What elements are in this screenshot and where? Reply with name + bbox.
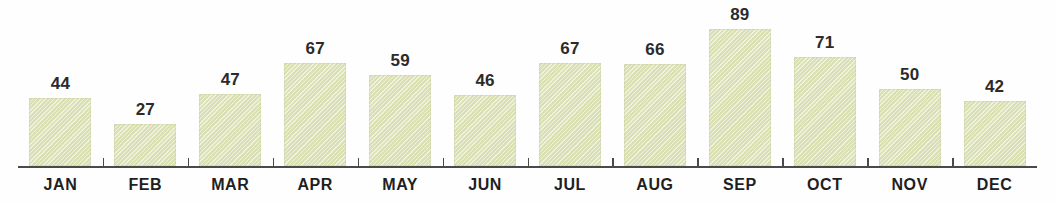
bar-rect[interactable] bbox=[199, 94, 261, 166]
bar-rect[interactable] bbox=[964, 101, 1026, 166]
category-slot: JUL bbox=[528, 172, 613, 198]
bar-value-label: 59 bbox=[390, 52, 409, 69]
bar-series: 442747675946676689715042 bbox=[18, 0, 1037, 166]
category-label[interactable]: AUG bbox=[636, 176, 673, 193]
category-slot: OCT bbox=[782, 172, 867, 198]
bar-chart: 442747675946676689715042 JANFEBMARAPRMAY… bbox=[0, 0, 1057, 202]
bar-rect[interactable] bbox=[709, 29, 771, 166]
category-label[interactable]: APR bbox=[297, 176, 333, 193]
category-slot: AUG bbox=[612, 172, 697, 198]
x-axis-tick bbox=[867, 158, 869, 167]
bar-group[interactable]: 27 bbox=[103, 0, 188, 166]
x-axis-tick bbox=[358, 158, 360, 167]
bar-value-label: 50 bbox=[900, 66, 919, 83]
category-label[interactable]: JUN bbox=[468, 176, 502, 193]
bar-rect[interactable] bbox=[539, 63, 601, 166]
x-axis-tick bbox=[697, 158, 699, 167]
x-axis-tick bbox=[782, 158, 784, 167]
category-label[interactable]: NOV bbox=[891, 176, 927, 193]
category-slot: JUN bbox=[443, 172, 528, 198]
category-slot: MAY bbox=[358, 172, 443, 198]
x-axis-tick bbox=[103, 158, 105, 167]
bar-value-label: 67 bbox=[560, 40, 579, 57]
category-label[interactable]: DEC bbox=[977, 176, 1013, 193]
bar-group[interactable]: 66 bbox=[612, 0, 697, 166]
bar-group[interactable]: 67 bbox=[528, 0, 613, 166]
bar-value-label: 46 bbox=[475, 72, 494, 89]
category-slot: MAR bbox=[188, 172, 273, 198]
bar-value-label: 66 bbox=[645, 41, 664, 58]
category-label[interactable]: JUL bbox=[554, 176, 586, 193]
x-axis-tick bbox=[188, 158, 190, 167]
category-slot: JAN bbox=[18, 172, 103, 198]
bar-value-label: 44 bbox=[51, 75, 70, 92]
bar-value-label: 89 bbox=[730, 6, 749, 23]
bar-rect[interactable] bbox=[454, 95, 516, 166]
category-label[interactable]: MAR bbox=[211, 176, 249, 193]
category-slot: DEC bbox=[952, 172, 1037, 198]
bar-group[interactable]: 59 bbox=[358, 0, 443, 166]
bar-value-label: 47 bbox=[221, 71, 240, 88]
category-slot: SEP bbox=[697, 172, 782, 198]
bar-rect[interactable] bbox=[284, 63, 346, 166]
bar-rect[interactable] bbox=[624, 64, 686, 166]
bar-group[interactable]: 42 bbox=[952, 0, 1037, 166]
bar-group[interactable]: 50 bbox=[867, 0, 952, 166]
bar-value-label: 67 bbox=[306, 40, 325, 57]
bar-value-label: 27 bbox=[136, 101, 155, 118]
x-axis-tick bbox=[952, 158, 954, 167]
bar-group[interactable]: 44 bbox=[18, 0, 103, 166]
x-axis-tick bbox=[528, 158, 530, 167]
x-axis-ticks bbox=[18, 158, 1037, 167]
bar-group[interactable]: 47 bbox=[188, 0, 273, 166]
bar-group[interactable]: 67 bbox=[273, 0, 358, 166]
category-slot: FEB bbox=[103, 172, 188, 198]
category-label[interactable]: OCT bbox=[807, 176, 843, 193]
bar-rect[interactable] bbox=[369, 75, 431, 166]
category-slot: APR bbox=[273, 172, 358, 198]
x-axis-tick bbox=[443, 158, 445, 167]
category-label[interactable]: MAY bbox=[382, 176, 418, 193]
bar-rect[interactable] bbox=[879, 89, 941, 166]
bar-group[interactable]: 46 bbox=[443, 0, 528, 166]
x-axis-category-labels: JANFEBMARAPRMAYJUNJULAUGSEPOCTNOVDEC bbox=[18, 172, 1037, 198]
category-label[interactable]: SEP bbox=[723, 176, 757, 193]
bar-rect[interactable] bbox=[794, 57, 856, 166]
category-slot: NOV bbox=[867, 172, 952, 198]
plot-area: 442747675946676689715042 bbox=[18, 0, 1037, 166]
category-label[interactable]: JAN bbox=[44, 176, 78, 193]
bar-value-label: 42 bbox=[985, 78, 1004, 95]
x-axis-tick bbox=[273, 158, 275, 167]
bar-value-label: 71 bbox=[815, 34, 834, 51]
bar-group[interactable]: 71 bbox=[782, 0, 867, 166]
category-label[interactable]: FEB bbox=[128, 176, 162, 193]
x-axis-tick bbox=[612, 158, 614, 167]
bar-rect[interactable] bbox=[29, 98, 91, 166]
bar-group[interactable]: 89 bbox=[697, 0, 782, 166]
